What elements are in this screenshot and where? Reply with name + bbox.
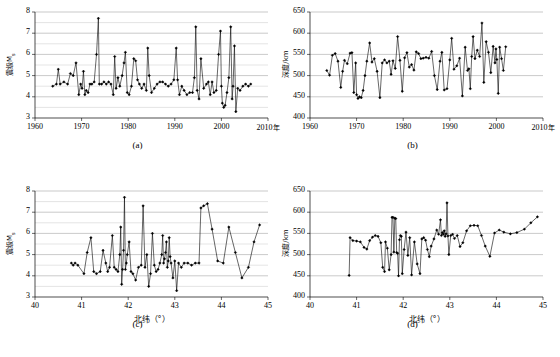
data-point	[397, 274, 400, 277]
y-tick-label: 400	[275, 112, 305, 121]
data-point	[130, 85, 133, 88]
y-tick-label: 3	[0, 112, 30, 121]
data-point	[193, 76, 196, 79]
data-point	[388, 269, 391, 272]
axis-lines	[310, 12, 543, 118]
data-point	[59, 83, 62, 86]
x-tick-label: 1980	[108, 122, 148, 131]
data-point	[253, 241, 256, 244]
x-tick-label: 42	[383, 301, 423, 310]
data-point	[235, 110, 238, 113]
y-tick-label: 650	[275, 6, 305, 15]
data-point	[153, 264, 156, 267]
data-point	[217, 53, 220, 56]
panel-a: 345678196019701980199020002010年震级Ms (a)	[0, 0, 275, 178]
data-point	[392, 59, 395, 62]
data-point	[146, 47, 149, 50]
data-point	[126, 253, 129, 256]
data-point	[425, 56, 428, 59]
y-tick-label: 4	[0, 91, 30, 100]
y-tick-label: 600	[275, 206, 305, 215]
data-point	[427, 57, 430, 60]
panel-b: 4004505005506006501960197019801990200020…	[275, 0, 550, 178]
data-point	[374, 234, 377, 237]
data-point	[222, 262, 225, 265]
panel-c-plot: 345678404142434445震级Ms北纬（°）	[0, 179, 275, 321]
data-point	[469, 87, 472, 90]
data-point	[325, 69, 328, 72]
data-point	[478, 55, 481, 58]
data-point	[118, 253, 121, 256]
data-point	[117, 76, 120, 79]
data-point	[495, 48, 498, 51]
x-tick-label: 43	[155, 301, 195, 310]
data-point	[443, 89, 446, 92]
x-tick-label: 40	[290, 301, 330, 310]
panel-b-svg	[275, 0, 550, 142]
data-point	[211, 228, 214, 231]
data-point	[198, 262, 201, 265]
data-point	[474, 57, 477, 60]
data-point	[113, 55, 116, 58]
x-tick-label: 42	[108, 301, 148, 310]
y-tick-label: 7	[0, 206, 30, 215]
data-point	[472, 35, 475, 38]
data-point	[436, 88, 439, 91]
data-point	[481, 22, 484, 25]
data-point	[420, 57, 423, 60]
data-point	[446, 202, 449, 205]
data-point	[413, 69, 416, 72]
data-point	[102, 249, 105, 252]
data-point	[142, 204, 145, 207]
y-tick-label: 600	[275, 27, 305, 36]
x-tick-label: 1960	[15, 122, 55, 131]
data-point	[79, 83, 82, 86]
data-point	[485, 40, 488, 43]
data-point	[444, 235, 447, 238]
series-line	[327, 23, 506, 98]
y-tick-label: 7	[0, 27, 30, 36]
data-point	[339, 86, 342, 89]
data-point	[448, 59, 451, 62]
data-point	[458, 57, 461, 60]
data-point	[450, 37, 453, 40]
data-point	[383, 270, 386, 273]
data-point	[200, 57, 203, 60]
data-point	[509, 232, 512, 235]
data-point	[169, 255, 172, 258]
data-point	[439, 218, 442, 221]
data-point	[433, 238, 436, 241]
x-tick-label: 43	[430, 301, 470, 310]
data-point	[430, 245, 433, 248]
data-point	[503, 231, 506, 234]
data-point	[433, 74, 436, 77]
panel-d-svg	[275, 179, 550, 321]
panel-d: 400450500550600650404142434445深度/km北纬（°）…	[275, 179, 550, 357]
data-point	[196, 89, 199, 92]
data-point	[168, 236, 171, 239]
panel-b-plot: 4004505005506006501960197019801990200020…	[275, 0, 550, 142]
data-point	[352, 91, 355, 94]
data-point	[386, 247, 389, 250]
x-tick-label: 1970	[337, 122, 377, 131]
data-point	[187, 262, 190, 265]
data-point	[484, 245, 487, 248]
data-point	[394, 67, 397, 70]
data-point	[416, 263, 419, 266]
data-point	[405, 231, 408, 234]
data-point	[228, 226, 231, 229]
data-point	[406, 51, 409, 54]
panel-d-plot: 400450500550600650404142434445深度/km北纬（°）	[275, 179, 550, 321]
data-point	[241, 277, 244, 280]
data-point	[492, 45, 495, 48]
data-point	[99, 270, 102, 273]
y-axis-label-subscript: s	[10, 53, 16, 56]
data-point	[480, 234, 483, 237]
data-point	[502, 69, 505, 72]
data-point	[194, 25, 197, 28]
data-point	[77, 93, 80, 96]
data-point	[489, 71, 492, 74]
data-point	[384, 241, 387, 244]
x-tick-label: 1960	[290, 122, 330, 131]
data-point	[119, 226, 122, 229]
